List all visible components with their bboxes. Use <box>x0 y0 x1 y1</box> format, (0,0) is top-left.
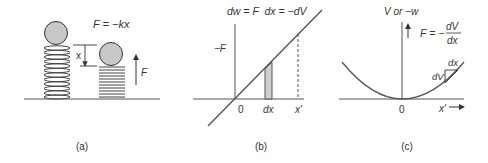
triangle-dx-label: dx <box>448 57 459 68</box>
displacement-label: x <box>76 50 81 61</box>
hooke-equation: F = −kx <box>93 18 130 30</box>
spring-compressed <box>99 67 125 97</box>
panel-a: x F F = −kx (a) <box>24 18 160 152</box>
ball-uncompressed <box>45 22 68 45</box>
origin-label: 0 <box>399 104 405 115</box>
y-axis-label: V or −w <box>384 6 419 17</box>
force-label: F <box>141 67 148 78</box>
force-eq-num: dV <box>446 21 460 32</box>
ball-compressed <box>100 43 123 66</box>
caption-c: (c) <box>401 141 413 152</box>
caption-b: (b) <box>255 141 267 152</box>
endpoint-label: x′ <box>294 104 303 115</box>
origin-label: 0 <box>238 104 244 115</box>
panel-b: dw = F dx = −dV −F 0 dx x′ (b) <box>193 5 322 152</box>
potential-curve <box>342 62 464 99</box>
force-eq-lhs: F = − <box>420 27 444 39</box>
strip-label: dx <box>263 104 275 115</box>
force-eq-den: dx <box>447 35 459 46</box>
triangle-dv-label: dV <box>432 71 445 82</box>
y-axis-label: −F <box>214 43 227 54</box>
spring-uncompressed <box>44 46 70 99</box>
work-equation: dw = F dx = −dV <box>227 5 307 17</box>
slope-triangle <box>445 70 458 83</box>
caption-a: (a) <box>76 141 88 152</box>
x-axis-label: x′ <box>438 103 447 114</box>
diagram-canvas: x F F = −kx (a) dw = F dx = −dV −F 0 dx … <box>0 0 488 163</box>
panel-c: V or −w F = − dV dx dx dV 0 x′ (c) <box>339 6 464 152</box>
figure-svg: x F F = −kx (a) dw = F dx = −dV −F 0 dx … <box>0 0 488 163</box>
